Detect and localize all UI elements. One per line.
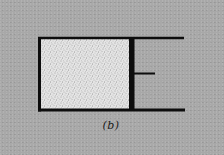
figure-label: (b) — [98, 119, 124, 132]
gas-chamber — [40, 38, 131, 109]
piston — [129, 37, 135, 111]
